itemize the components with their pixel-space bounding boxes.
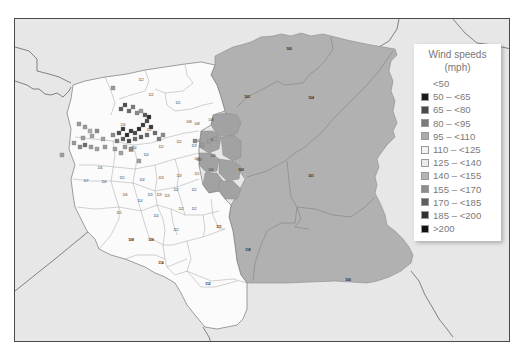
legend-label: 95 – <110: [433, 131, 475, 142]
legend-swatch: [421, 211, 429, 219]
map-label: 108: [128, 238, 134, 242]
map-label: 112: [176, 140, 181, 144]
map-label: 106: [208, 168, 214, 172]
map-label: 118: [245, 248, 251, 252]
legend-item: 140 – <155: [421, 169, 501, 182]
map-label: 112: [148, 93, 153, 97]
map-label: 112: [173, 188, 178, 192]
legend-swatch: [421, 132, 429, 140]
map-label: 115: [116, 211, 121, 215]
map-label: 113: [156, 193, 161, 197]
map-label: 104: [194, 157, 200, 161]
legend-swatch: [421, 225, 429, 233]
map-label: 101: [308, 174, 314, 178]
map-label: 108: [208, 118, 214, 122]
legend-label: 170 – <185: [433, 197, 481, 208]
map-label: 106: [345, 278, 351, 282]
map-label: 112: [138, 78, 143, 82]
legend-label: 185 – <200: [433, 210, 481, 221]
legend-label: 80 – <95: [433, 118, 471, 129]
map-label: 114: [139, 178, 144, 182]
map-label: 112: [205, 282, 211, 286]
map-label: 114: [137, 199, 142, 203]
legend-label: 155 – <170: [433, 184, 481, 195]
legend-swatch: [421, 172, 429, 180]
legend-swatch: [421, 106, 429, 114]
legend-swatch: [421, 146, 429, 154]
map-label: 100: [286, 47, 292, 51]
map-label: 114: [143, 153, 148, 157]
map-label: 112: [178, 207, 183, 211]
legend-label: <50: [433, 78, 449, 89]
legend-title-line1: Wind speeds: [414, 48, 501, 61]
legend-swatch: [421, 198, 429, 206]
map-label: 117: [83, 179, 88, 183]
map-label: 112: [173, 228, 178, 232]
legend-item: 155 – <170: [421, 183, 501, 196]
legend-title: Wind speeds (mph): [414, 48, 501, 74]
legend-label: 125 – <140: [433, 157, 481, 168]
legend-item: 125 – <140: [421, 156, 501, 169]
legend-item: 170 – <185: [421, 196, 501, 209]
map-label: 108: [194, 122, 200, 126]
legend-label: >200: [433, 223, 455, 234]
map-label: 113: [191, 144, 196, 148]
map-label: 100: [238, 168, 244, 172]
legend-label: 65 – <80: [433, 104, 471, 115]
legend-label: 110 – <125: [433, 144, 481, 155]
map-label: 113: [147, 193, 152, 197]
map-label: 116: [97, 166, 102, 170]
legend-item: <50: [421, 77, 501, 90]
map-label: 114: [153, 214, 158, 218]
map-label: 116: [120, 123, 125, 127]
legend-swatch: [421, 159, 429, 167]
legend-item: 50 – <65: [421, 90, 501, 103]
map-label: 111: [176, 101, 181, 105]
map-label: 108: [186, 120, 192, 124]
legend-item: 80 – <95: [421, 117, 501, 130]
map-label: 116: [101, 180, 106, 184]
map-label: 115: [119, 176, 124, 180]
legend-item: 110 – <125: [421, 143, 501, 156]
map-label: 112: [191, 207, 196, 211]
legend-items: <5050 – <6565 – <8080 – <9595 – <110110 …: [414, 77, 501, 235]
legend-swatch: [421, 119, 429, 127]
map-label: 104: [308, 96, 314, 100]
map-label: 112: [158, 145, 163, 149]
legend-swatch: [421, 93, 429, 101]
map-label: 112: [191, 188, 196, 192]
map-label: 111: [195, 172, 200, 176]
map-label: 106: [148, 238, 154, 242]
legend: Wind speeds (mph) <5050 – <6565 – <8080 …: [414, 44, 501, 241]
map-label: 113: [158, 176, 163, 180]
legend-item: >200: [421, 222, 501, 235]
legend-item: 95 – <110: [421, 130, 501, 143]
map-label: 113: [176, 174, 181, 178]
legend-title-line2: (mph): [414, 61, 501, 74]
map-label: 102: [244, 95, 250, 99]
map-label: 111: [216, 225, 221, 229]
legend-swatch: [421, 185, 429, 193]
legend-item: 185 – <200: [421, 209, 501, 222]
map-label: 113: [164, 194, 169, 198]
map-label: 116: [122, 193, 127, 197]
legend-swatch: [421, 80, 429, 88]
map-label: 114: [158, 261, 164, 265]
legend-label: 140 – <155: [433, 170, 481, 181]
map-label: 108: [210, 154, 216, 158]
legend-label: 50 – <65: [433, 91, 471, 102]
legend-item: 65 – <80: [421, 103, 501, 116]
